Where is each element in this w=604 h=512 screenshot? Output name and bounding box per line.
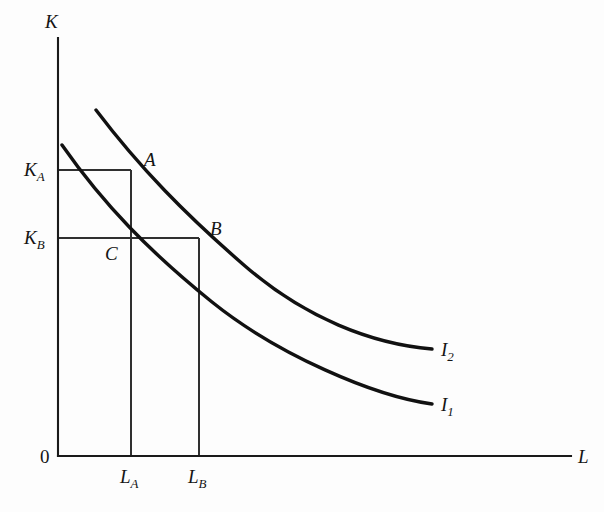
tick-label-ka: KA bbox=[23, 159, 45, 184]
curve-i2 bbox=[96, 110, 432, 349]
curve-label-i2: I2 bbox=[440, 339, 454, 364]
curve-label-i1: I1 bbox=[440, 394, 454, 419]
tick-label-lb: LB bbox=[187, 466, 207, 491]
isoquant-figure: K L 0 KA KB LA LB A B C I2 I1 bbox=[0, 0, 604, 512]
axes-group bbox=[58, 38, 571, 456]
x-axis-label: L bbox=[577, 446, 589, 467]
isoquant-diagram: K L 0 KA KB LA LB A B C I2 I1 bbox=[0, 0, 604, 512]
tick-label-kb: KB bbox=[23, 227, 45, 252]
y-axis-label: K bbox=[44, 11, 59, 32]
construction-guides bbox=[58, 170, 199, 456]
origin-label: 0 bbox=[40, 446, 50, 467]
curve-i1 bbox=[62, 145, 432, 404]
point-label-a: A bbox=[142, 149, 156, 170]
point-label-c: C bbox=[105, 243, 118, 264]
tick-label-la: LA bbox=[119, 466, 139, 491]
point-label-b: B bbox=[210, 218, 222, 239]
